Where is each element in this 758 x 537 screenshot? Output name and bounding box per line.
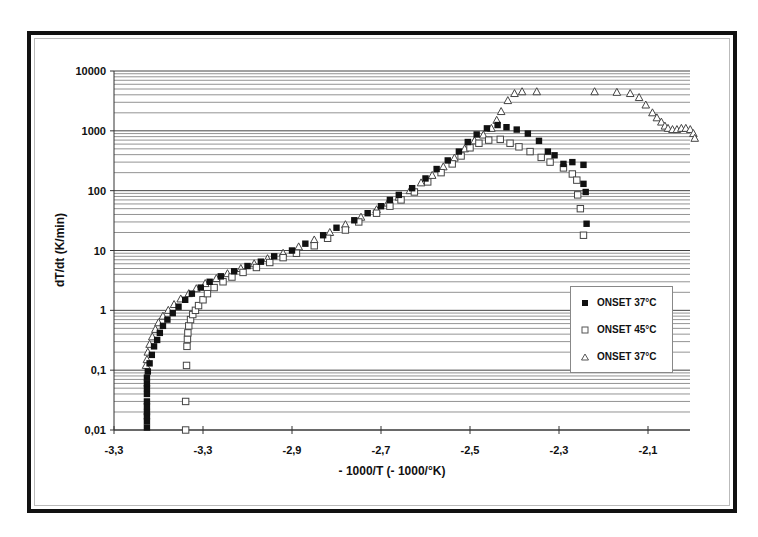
- legend-item-filled-square: ONSET 37°C: [581, 297, 657, 308]
- y-tick-label: 0,01: [85, 424, 106, 436]
- data-points: [142, 88, 698, 433]
- gridlines: [114, 71, 690, 430]
- x-axis-title: - 1000/T (- 1000/°K): [339, 464, 446, 478]
- y-tick-label: 10: [94, 245, 106, 257]
- x-tick-label: -2,3: [550, 444, 569, 456]
- legend: ONSET 37°C ONSET 45°C ONSET 37°C: [570, 286, 673, 373]
- x-tick-label: -2,1: [639, 444, 658, 456]
- x-tick-label: -3,3: [105, 444, 124, 456]
- x-tick-label: -3,3: [194, 444, 213, 456]
- x-tick-label: -2,7: [372, 444, 391, 456]
- legend-item-open-square: ONSET 45°C: [581, 324, 657, 335]
- y-tick-label: 1000: [82, 125, 106, 137]
- filled-square-icon: [581, 299, 589, 307]
- y-axis-title: dT/dt (K/min): [53, 213, 67, 287]
- x-tick-label: -2,5: [461, 444, 480, 456]
- legend-item-open-triangle: ONSET 37°C: [581, 351, 657, 362]
- legend-label: ONSET 45°C: [597, 324, 657, 335]
- y-tick-label: 0,1: [91, 364, 106, 376]
- open-square-icon: [581, 326, 589, 334]
- x-tick-labels: -3,3-3,3-2,9-2,7-2,5-2,3-2,1: [105, 444, 658, 456]
- y-tick-label: 100: [88, 185, 106, 197]
- legend-label: ONSET 37°C: [597, 351, 657, 362]
- open-triangle-icon: [581, 353, 589, 361]
- series-filled-square: [144, 122, 590, 431]
- y-tick-label: 1: [100, 304, 106, 316]
- y-tick-label: 10000: [75, 65, 106, 77]
- series-open-square: [182, 136, 586, 433]
- y-tick-labels: 0,010,1110100100010000: [75, 65, 106, 436]
- scatter-plot: 0,010,1110100100010000 -3,3-3,3-2,9-2,7-…: [0, 0, 758, 537]
- x-tick-label: -2,9: [283, 444, 302, 456]
- legend-label: ONSET 37°C: [597, 297, 657, 308]
